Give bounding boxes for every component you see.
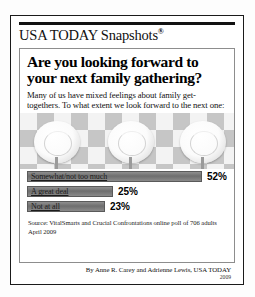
masthead-brand-text: USA TODAY Snapshots (19, 27, 158, 43)
bar-label: A great deal (28, 187, 68, 196)
plate-connector-stem (129, 157, 132, 169)
bar-label: Somewhat/not too much (28, 172, 107, 181)
frame-inner: USA TODAY Snapshots® Are you looking for… (11, 16, 243, 284)
byline: By Anne R. Carey and Adrienne Lewis, USA… (19, 266, 231, 273)
source-note: Source: VitalSmarts and Crucial Confront… (20, 215, 234, 235)
bar-row: Somewhat/not too much 52% (27, 170, 227, 183)
plate-connector-stem (55, 157, 58, 169)
outer-frame: USA TODAY Snapshots® Are you looking for… (10, 15, 244, 285)
content-panel: Are you looking forward to your next fam… (19, 48, 235, 263)
snapshot-infographic: USA TODAY Snapshots® Are you looking for… (0, 0, 255, 297)
registered-trademark-icon: ® (158, 27, 164, 36)
bar-value: 52% (207, 171, 227, 182)
masthead-title: USA TODAY Snapshots® (19, 27, 235, 46)
credit-year: 2009 (19, 274, 231, 280)
bar-row: A great deal 25% (27, 185, 227, 198)
bar-chart: Somewhat/not too much 52% A great deal 2… (20, 170, 234, 215)
masthead-top-rule (19, 22, 235, 25)
bar-value: 25% (118, 186, 138, 197)
bar-value: 23% (110, 201, 130, 212)
bar-fill: Not at all (27, 201, 105, 212)
bar-row: Not at all 23% (27, 200, 227, 213)
panel-header: Are you looking forward to your next fam… (20, 49, 234, 111)
credit-block: By Anne R. Carey and Adrienne Lewis, USA… (19, 263, 235, 280)
headline-line-2: your next family gathering? (27, 70, 227, 86)
plate-connector-stem (201, 157, 204, 169)
illustration-plates-on-tablecloth (20, 113, 234, 169)
headline-line-1: Are you looking forward to (27, 54, 227, 70)
headline: Are you looking forward to your next fam… (27, 54, 227, 87)
bar-label: Not at all (28, 202, 60, 211)
subtitle: Many of us have mixed feelings about fam… (27, 90, 227, 111)
bar-fill: A great deal (27, 186, 113, 197)
bar-fill: Somewhat/not too much (27, 171, 202, 182)
